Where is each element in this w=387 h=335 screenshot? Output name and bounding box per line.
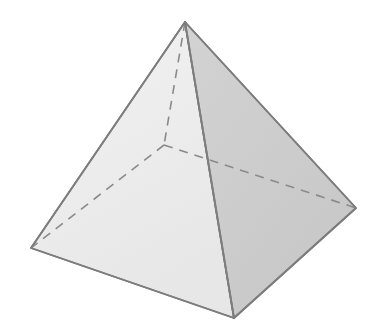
square-pyramid-diagram: Square Pyramid Line drawing of a right s… (0, 0, 387, 335)
figure-canvas: Square Pyramid Line drawing of a right s… (0, 0, 387, 335)
